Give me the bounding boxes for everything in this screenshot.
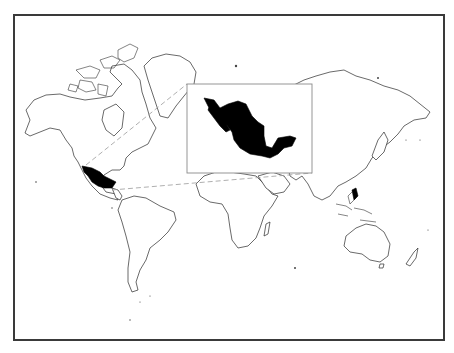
world-map [0,0,454,353]
new-zealand [406,248,418,266]
madagascar [264,222,270,236]
australia [344,224,390,262]
tasmania [379,264,384,268]
philippines [352,188,358,200]
mexico-inset [187,84,312,173]
south-america [118,196,176,292]
